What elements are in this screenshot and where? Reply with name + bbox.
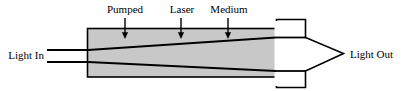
callout-label-medium: Medium <box>210 3 248 15</box>
pumped-laser-medium-diagram: Pumped Laser Medium Light In Light Out <box>0 0 411 91</box>
output-label: Light Out <box>350 48 393 60</box>
arrow-slab-seam-mask <box>275 21 279 86</box>
callout-label-pumped: Pumped <box>107 3 144 15</box>
callout-label-laser: Laser <box>170 3 195 15</box>
output-beam-arrow <box>277 20 344 88</box>
input-label: Light In <box>8 49 44 61</box>
diagram-canvas: Pumped Laser Medium Light In Light Out <box>0 0 411 91</box>
